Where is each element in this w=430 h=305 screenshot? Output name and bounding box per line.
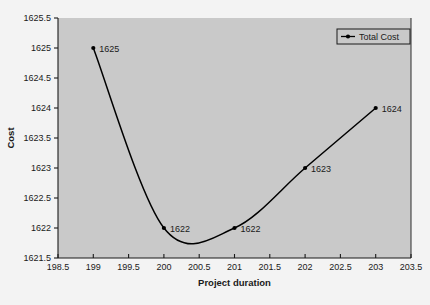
y-tick-label: 1623 (31, 163, 51, 173)
x-tick-label: 203.5 (400, 262, 423, 272)
y-tick-label: 1625 (31, 43, 51, 53)
x-tick-label: 200 (156, 262, 171, 272)
x-tick-label: 198.5 (47, 262, 70, 272)
data-point-marker (91, 46, 95, 50)
y-tick-label: 1624.5 (23, 73, 51, 83)
plot-area-background (58, 18, 411, 258)
x-axis-title: Project duration (198, 277, 271, 288)
data-point-label: 1625 (99, 44, 119, 54)
y-tick-label: 1623.5 (23, 133, 51, 143)
y-tick-label: 1625.5 (23, 13, 51, 23)
data-point-marker (162, 226, 166, 230)
legend-item-label: Total Cost (359, 32, 400, 42)
y-tick-label: 1622 (31, 223, 51, 233)
x-tick-label: 201 (227, 262, 242, 272)
line-chart: 1621.516221622.516231623.516241624.51625… (0, 0, 430, 305)
data-point-label: 1622 (170, 224, 190, 234)
y-tick-label: 1622.5 (23, 193, 51, 203)
data-point-marker (232, 226, 236, 230)
x-tick-label: 199 (86, 262, 101, 272)
x-tick-label: 202 (298, 262, 313, 272)
data-point-marker (303, 166, 307, 170)
x-tick-label: 201.5 (259, 262, 282, 272)
x-tick-label: 200.5 (188, 262, 211, 272)
chart-legend: Total Cost (337, 29, 410, 44)
data-point-label: 1624 (382, 104, 402, 114)
data-point-marker (374, 106, 378, 110)
y-tick-label: 1624 (31, 103, 51, 113)
y-axis-title: Cost (5, 127, 16, 149)
x-tick-label: 202.5 (329, 262, 352, 272)
chart-container: 1621.516221622.516231623.516241624.51625… (0, 0, 430, 305)
x-tick-label: 203 (368, 262, 383, 272)
x-tick-label: 199.5 (117, 262, 140, 272)
data-point-label: 1622 (241, 224, 261, 234)
data-point-label: 1623 (311, 164, 331, 174)
